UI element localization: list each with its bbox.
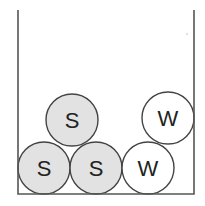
particle-label: W <box>158 106 179 131</box>
particle-group: SSSWW <box>18 92 194 194</box>
particle-label: W <box>138 156 159 181</box>
particle-label: S <box>37 156 52 181</box>
container-diagram: SSSWW <box>0 0 205 206</box>
stray-dot <box>186 33 188 35</box>
particle-label: S <box>65 108 80 133</box>
particle-label: S <box>89 156 104 181</box>
